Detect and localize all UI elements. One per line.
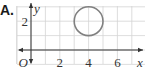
- x-tick-label: 4: [85, 55, 92, 70]
- x-tick-label: 2: [57, 55, 64, 70]
- y-axis-label: y: [32, 1, 40, 16]
- y-axis-arrow-down-icon: [29, 59, 33, 64]
- y-tick-label: 2: [22, 14, 29, 29]
- x-axis-label: x: [136, 55, 143, 70]
- x-axis-arrow-left-icon: [18, 48, 23, 52]
- x-axis-arrow-icon: [138, 48, 143, 52]
- origin-label: O: [19, 55, 29, 70]
- y-axis-arrow-icon: [29, 3, 33, 8]
- x-tick-label: 6: [114, 55, 121, 70]
- coordinate-grid: 2462Oxy: [0, 0, 145, 72]
